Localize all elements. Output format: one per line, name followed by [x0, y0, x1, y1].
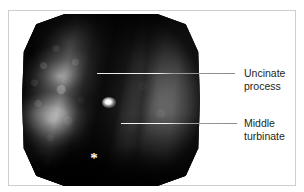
label-uncinate-process-line1: Uncinate — [244, 67, 285, 79]
label-middle-turbinate-line2: turbinate — [244, 130, 285, 143]
label-middle-turbinate-line1: Middle — [244, 117, 275, 129]
figure-page: * Uncinate process Middle turbinate — [0, 0, 304, 192]
leader-line-uncinate-process — [97, 73, 235, 74]
specular-highlight-icon — [102, 97, 116, 108]
figure-frame: * Uncinate process Middle turbinate — [8, 10, 296, 186]
label-uncinate-process: Uncinate process — [244, 67, 285, 93]
top-caption-fragment — [0, 0, 304, 6]
leader-line-middle-turbinate — [121, 123, 237, 124]
label-middle-turbinate: Middle turbinate — [244, 117, 285, 143]
label-uncinate-process-line2: process — [244, 80, 285, 93]
asterisk-marker: * — [87, 150, 101, 166]
